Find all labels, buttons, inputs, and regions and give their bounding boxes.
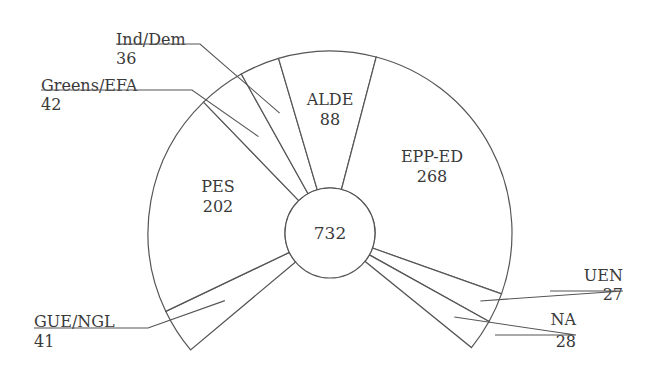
label-alde-name: ALDE [306, 90, 354, 109]
label-ind-dem-name: Ind/Dem [116, 30, 186, 49]
label-na-name: NA [550, 310, 576, 329]
label-pes-value: 202 [203, 197, 234, 216]
label-uen-name: UEN [584, 266, 623, 285]
parliament-seat-chart: 732 GUE/NGL41PES202Greens/EFA42Ind/Dem36… [0, 0, 657, 373]
label-ind-dem-value: 36 [116, 49, 136, 68]
label-greens-efa-name: Greens/EFA [41, 76, 138, 95]
label-pes-name: PES [201, 177, 234, 196]
total-seats-label: 732 [314, 223, 346, 243]
label-epp-ed-value: 268 [417, 167, 448, 186]
label-epp-ed-name: EPP-ED [401, 147, 463, 166]
label-alde-value: 88 [320, 110, 340, 129]
label-greens-efa-value: 42 [41, 95, 61, 114]
label-gue-ngl-value: 41 [34, 332, 54, 351]
label-uen-value: 27 [603, 285, 623, 304]
